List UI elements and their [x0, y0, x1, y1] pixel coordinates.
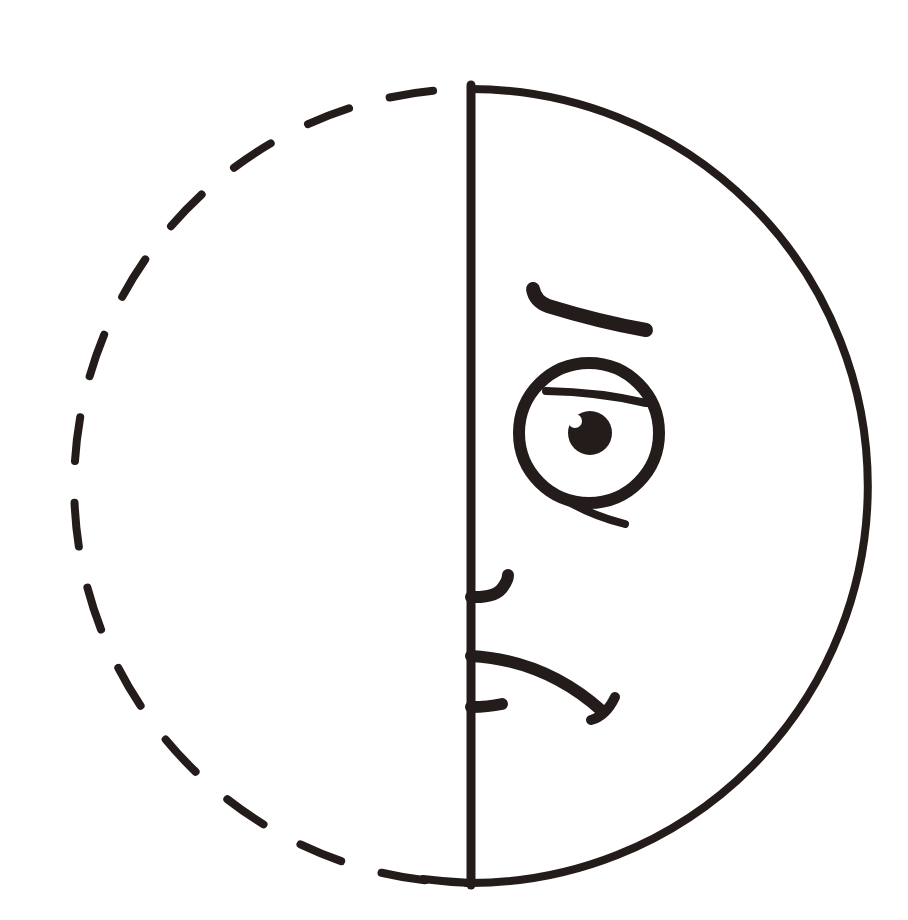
- half-face-illustration: [0, 0, 908, 920]
- chin-mark: [471, 704, 502, 707]
- solid-right-outline: [471, 89, 868, 883]
- eye: [519, 363, 659, 524]
- dashed-left-outline: [74, 89, 471, 883]
- nose: [471, 575, 508, 597]
- eyebrow: [533, 289, 646, 330]
- bottom-edge-stroke: [423, 879, 471, 883]
- upper-eyelid: [546, 391, 646, 403]
- pupil-highlight: [568, 414, 582, 428]
